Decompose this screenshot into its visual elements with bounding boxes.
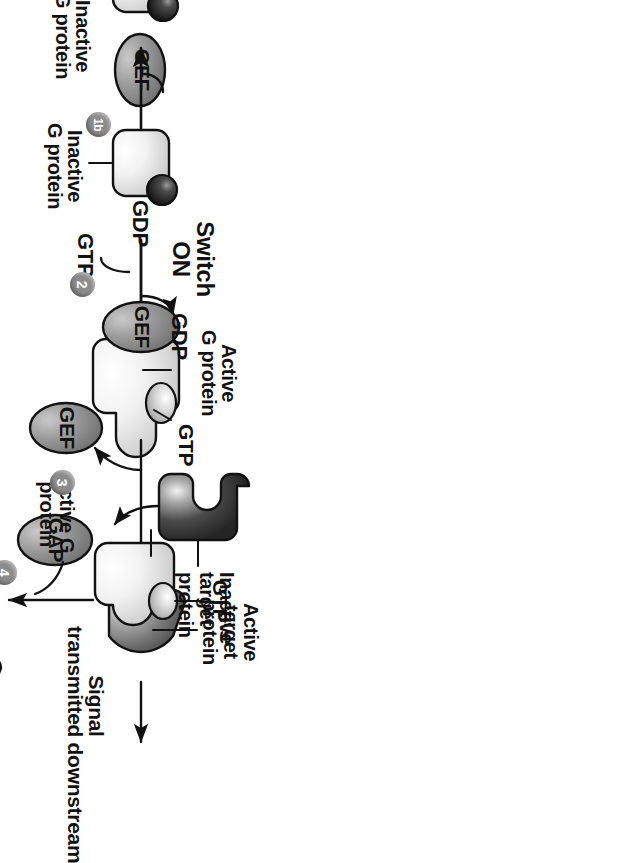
label-inactive-g-protein-left: Inactive G protein [44, 106, 85, 226]
step-badge-3: 3 [50, 470, 75, 495]
gap-label-1: GAP [46, 514, 67, 566]
label-switch-on: Switch ON [168, 214, 217, 304]
gef-label-3: GEF [132, 301, 153, 353]
label-gtp-callout-left: GTP [176, 424, 197, 466]
label-signal-transmitted: Signal transmitted downstream [64, 626, 107, 786]
gef-label-released: GEF [57, 402, 78, 454]
gdp-sphere-2 [148, 0, 178, 21]
label-inactive-g-protein-mid: Inactive G protein [52, 0, 93, 96]
label-active-g-protein-callout: Active G protein [198, 318, 239, 428]
gtp-sphere-1 [146, 383, 176, 423]
label-gdp-mid: GDP [129, 200, 151, 247]
curve-gtp-in [101, 258, 129, 272]
label-active-target-protein: Active target protein [200, 596, 261, 668]
label-gdp-out: GDP [168, 313, 190, 360]
curve-target-joins [115, 506, 159, 524]
gef-label-1: GEF [132, 44, 153, 96]
step-badge-2: 2 [70, 272, 95, 297]
gtp-sphere-2 [149, 583, 177, 619]
gap-complex-target-shape [0, 656, 1, 716]
inactive-target-protein-shape-top [159, 474, 249, 540]
label-gtp-in: GTP [74, 233, 96, 277]
step-badge-1b: 1b [86, 112, 111, 137]
